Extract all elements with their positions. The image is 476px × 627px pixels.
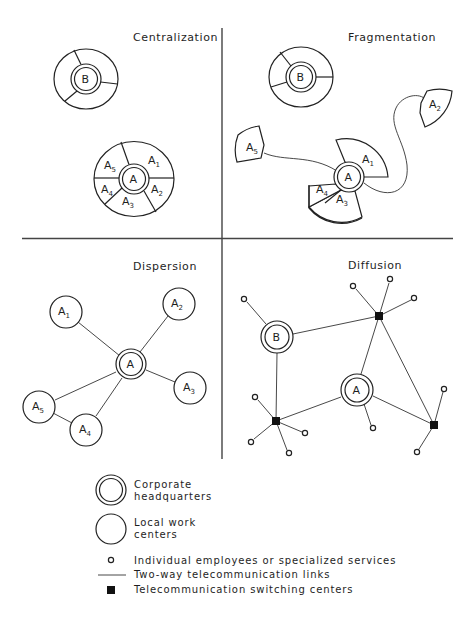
panel-dispersion: Dispersion A A1 A2 A3 A4 A5: [23, 260, 206, 446]
panel-centralization: Centralization B A A1 A2 A3: [54, 31, 218, 217]
switching-center-top: [375, 312, 383, 320]
legend-item-individual-employees: Individual employees or specialized serv…: [108, 555, 396, 566]
hq-label-b: B: [82, 73, 90, 86]
panel-title-fragmentation: Fragmentation: [348, 31, 436, 44]
segment-a2: A2: [151, 183, 163, 198]
filled-square-icon: [107, 586, 115, 594]
legend-item-local-work-centers: Local work centers: [96, 514, 196, 544]
panel-title-diffusion: Diffusion: [348, 259, 402, 272]
switching-center-right: [430, 421, 438, 429]
panel-title-dispersion: Dispersion: [133, 260, 197, 273]
small-circle-icon: [108, 557, 113, 562]
legend-item-corporate-headquarters: Corporate headquarters: [96, 475, 212, 505]
circle-icon: [96, 514, 126, 544]
link-a5: [264, 153, 337, 171]
panel-diffusion: Diffusion: [241, 259, 446, 456]
switching-center-left: [272, 417, 280, 425]
hq-a-with-units: A A1 A2 A3 A4 A5: [94, 142, 174, 217]
individual-nodes: [241, 276, 446, 455]
svg-text:Corporate: Corporate: [134, 479, 192, 490]
panel-fragmentation: Fragmentation B A A1 A2 A3 A4: [235, 31, 452, 223]
panel-title-centralization: Centralization: [133, 31, 218, 44]
work-organization-diagram: Centralization B A A1 A2 A3: [0, 0, 476, 627]
segment-a4: A4: [101, 183, 114, 198]
legend-item-switching-centers: Telecommunication switching centers: [107, 584, 353, 595]
legend: Corporate headquarters Local work center…: [96, 475, 396, 595]
segment-a1: A1: [148, 154, 160, 169]
hq-label-a: A: [345, 171, 353, 184]
svg-text:Two-way telecommunication link: Two-way telecommunication links: [133, 569, 330, 580]
hq-label-a: A: [130, 173, 138, 186]
svg-text:Local work: Local work: [134, 517, 196, 528]
svg-text:headquarters: headquarters: [134, 491, 212, 502]
segment-a5: A5: [104, 159, 116, 174]
hq-label-a: A: [127, 358, 135, 371]
svg-text:centers: centers: [134, 529, 178, 540]
svg-text:Telecommunication switching ce: Telecommunication switching centers: [133, 584, 353, 595]
hq-label-a: A: [353, 384, 361, 397]
segment-a3: A3: [122, 195, 134, 210]
link-a2: [364, 96, 426, 193]
hq-b-with-units: B: [269, 47, 333, 107]
hq-b-with-units: B: [54, 49, 118, 109]
double-circle-icon: [96, 475, 126, 505]
svg-text:Individual employees or specia: Individual employees or specialized serv…: [134, 555, 396, 566]
hq-label-b: B: [273, 331, 281, 344]
legend-item-telecom-links: Two-way telecommunication links: [98, 569, 330, 580]
hq-label-b: B: [297, 71, 305, 84]
